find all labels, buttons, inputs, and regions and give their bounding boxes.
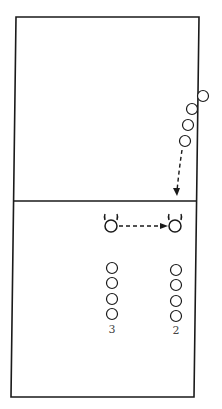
player-circle bbox=[187, 104, 198, 115]
court-outline bbox=[11, 17, 199, 397]
column-label-3: 3 bbox=[109, 323, 116, 336]
player-column-3 bbox=[107, 263, 118, 320]
player-column-2 bbox=[171, 265, 182, 322]
setter-end-icon bbox=[169, 214, 182, 232]
setter-start-icon bbox=[105, 214, 118, 232]
court-diagram: 3 2 bbox=[0, 0, 222, 409]
player-circle bbox=[183, 120, 194, 131]
ball-path-arrow bbox=[173, 150, 182, 196]
serving-queue bbox=[180, 91, 209, 147]
setter-move-arrow bbox=[119, 223, 168, 229]
player-circle bbox=[180, 136, 191, 147]
player-circle bbox=[198, 91, 209, 102]
column-label-2: 2 bbox=[173, 324, 180, 337]
